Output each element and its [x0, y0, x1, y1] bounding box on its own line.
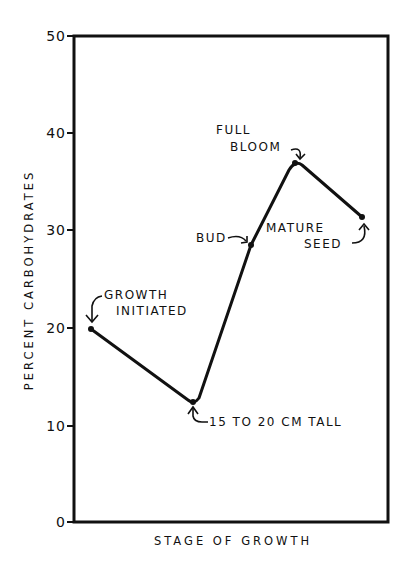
- y-tick-30: 30: [46, 222, 66, 238]
- y-tick-50: 50: [46, 28, 66, 44]
- label-seed-2: SEED: [304, 237, 342, 251]
- y-axis-title: PERCENT CARBOHYDRATES: [22, 170, 36, 390]
- label-growth-2: INITIATED: [116, 304, 188, 318]
- label-seed-1: MATURE: [266, 221, 325, 235]
- y-tick-10: 10: [46, 418, 66, 434]
- arrow-bud: [228, 237, 246, 241]
- label-bloom-2: BLOOM: [230, 140, 281, 154]
- label-bloom-1: FULL: [216, 123, 251, 137]
- x-axis-title: STAGE OF GROWTH: [154, 534, 312, 548]
- plot-frame: [74, 36, 388, 522]
- label-bud: BUD: [196, 231, 227, 245]
- point-bud: [248, 242, 254, 248]
- carbohydrate-chart: 50 40 30 20 10 0 PERCENT CARBOHYDRATES S…: [0, 0, 408, 563]
- arrow-seed: [352, 226, 365, 243]
- point-full-bloom: [292, 160, 298, 166]
- label-growth-1: GROWTH: [104, 288, 168, 302]
- data-points: [88, 160, 365, 405]
- point-growth-initiated: [88, 326, 94, 332]
- y-tick-0: 0: [56, 514, 66, 530]
- point-mature-seed: [359, 214, 365, 220]
- y-axis-labels: 50 40 30 20 10 0: [46, 28, 66, 530]
- annotation-arrows: [86, 149, 369, 422]
- point-15-20cm: [190, 399, 196, 405]
- y-tick-40: 40: [46, 125, 66, 141]
- data-line: [91, 163, 362, 402]
- label-tall: 15 TO 20 CM TALL: [209, 415, 342, 429]
- y-tick-20: 20: [46, 320, 66, 336]
